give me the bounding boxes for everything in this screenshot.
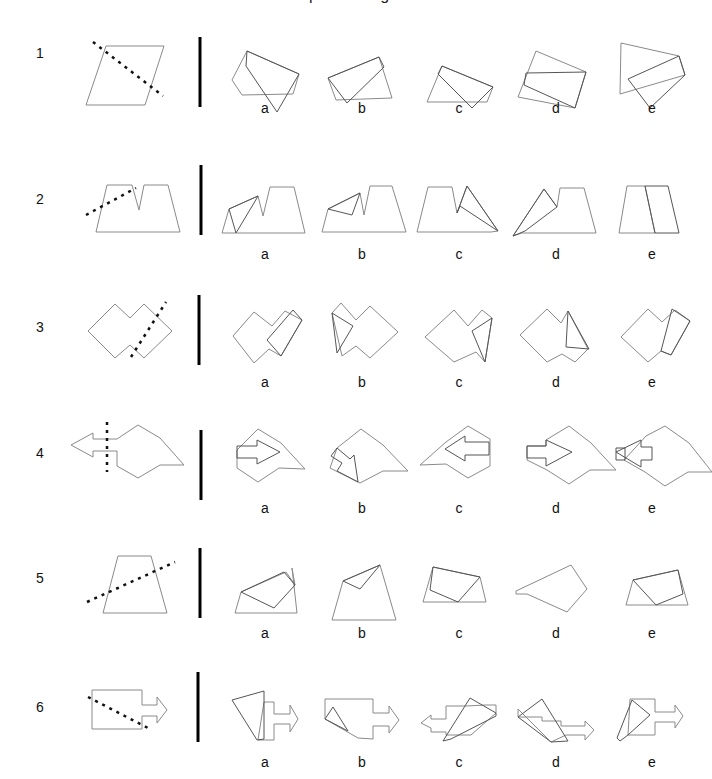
option-label-d: d: [546, 100, 566, 116]
base-shape: [513, 188, 596, 236]
answer-option-e[interactable]: [621, 309, 690, 362]
folded-flap: [445, 436, 489, 461]
paper-shape: [96, 185, 180, 232]
question-figure: [88, 302, 172, 358]
base-shape: [621, 309, 690, 362]
base-shape: [527, 426, 616, 484]
question-figure: [87, 556, 175, 613]
base-shape: [232, 51, 299, 95]
answer-option-c[interactable]: [420, 426, 490, 478]
folded-flap: [633, 570, 683, 605]
row-number: 6: [36, 699, 44, 715]
paper-shape: [71, 425, 184, 478]
folded-flap: [343, 565, 380, 589]
folded-flap: [645, 186, 679, 233]
base-shape: [628, 699, 683, 735]
answer-option-e[interactable]: [620, 43, 685, 108]
row-number: 3: [36, 319, 44, 335]
option-label-a: a: [255, 246, 275, 262]
answer-option-c[interactable]: [423, 567, 486, 602]
answer-option-d[interactable]: [518, 699, 594, 742]
answer-option-a[interactable]: [232, 691, 298, 740]
question-row-4: [71, 422, 712, 500]
answer-option-b[interactable]: [332, 565, 396, 620]
option-label-a: a: [255, 625, 275, 641]
folded-flap: [332, 313, 353, 353]
folded-flap: [430, 567, 480, 602]
fold-line: [88, 697, 148, 728]
option-label-e: e: [642, 374, 662, 390]
folded-flap: [328, 57, 384, 103]
option-label-e: e: [642, 100, 662, 116]
option-label-e: e: [642, 500, 662, 516]
answer-option-c[interactable]: [421, 698, 496, 741]
option-label-a: a: [255, 500, 275, 516]
folded-flap: [661, 309, 690, 355]
base-shape: [330, 429, 408, 483]
option-label-b: b: [352, 100, 372, 116]
answer-option-e[interactable]: [619, 186, 679, 233]
row-number: 1: [36, 45, 44, 61]
fold-line: [86, 188, 136, 215]
option-label-e: e: [642, 754, 662, 770]
option-label-d: d: [546, 625, 566, 641]
base-shape: [325, 699, 399, 739]
base-shape: [237, 429, 305, 482]
answer-option-c[interactable]: [425, 310, 492, 362]
option-label-b: b: [352, 374, 372, 390]
base-shape: [417, 186, 498, 232]
answer-option-b[interactable]: [322, 186, 406, 232]
question-row-5: [87, 548, 688, 620]
option-label-b: b: [352, 754, 372, 770]
folded-flap: [229, 196, 258, 233]
answer-option-d[interactable]: [527, 426, 616, 484]
answer-option-b[interactable]: [328, 57, 392, 103]
paper-shape: [92, 690, 167, 729]
question-figure: [86, 185, 180, 232]
base-shape: [332, 565, 396, 620]
fold-line: [93, 42, 163, 96]
option-label-a: a: [255, 100, 275, 116]
option-label-c: c: [449, 754, 469, 770]
base-shape: [624, 426, 712, 486]
base-shape: [421, 705, 496, 735]
answer-option-d[interactable]: [513, 188, 596, 236]
option-label-b: b: [352, 500, 372, 516]
answer-option-d[interactable]: [520, 309, 589, 362]
answer-option-a[interactable]: [237, 429, 305, 482]
answer-option-c[interactable]: [417, 186, 498, 232]
base-shape: [332, 303, 398, 358]
question-row-6: [88, 672, 683, 742]
option-label-c: c: [449, 500, 469, 516]
answer-option-a[interactable]: [235, 568, 297, 613]
option-label-a: a: [255, 754, 275, 770]
folded-flap: [513, 189, 557, 236]
option-label-a: a: [255, 374, 275, 390]
base-shape: [620, 43, 685, 94]
folded-flap: [325, 707, 348, 731]
answer-option-a[interactable]: [233, 310, 302, 363]
base-shape: [322, 186, 406, 232]
question-figure: [71, 422, 184, 478]
row-number: 4: [36, 445, 44, 461]
answer-option-e[interactable]: [626, 570, 688, 605]
answer-option-d[interactable]: [516, 565, 587, 612]
row-number: 2: [36, 191, 44, 207]
fold-line: [131, 302, 166, 357]
option-label-d: d: [546, 754, 566, 770]
answer-option-b[interactable]: [330, 429, 408, 483]
option-label-b: b: [352, 246, 372, 262]
paper-shape: [103, 556, 167, 613]
answer-option-b[interactable]: [332, 303, 398, 358]
question-row-3: [88, 295, 690, 365]
option-label-c: c: [449, 100, 469, 116]
base-shape: [520, 309, 588, 362]
answer-option-a[interactable]: [222, 187, 305, 233]
answer-option-b[interactable]: [325, 699, 399, 739]
question-figure: [86, 42, 164, 105]
folded-flap: [472, 318, 492, 362]
answer-option-e[interactable]: [616, 426, 712, 486]
answer-option-e[interactable]: [617, 699, 683, 741]
base-shape: [516, 565, 587, 612]
option-label-d: d: [546, 500, 566, 516]
